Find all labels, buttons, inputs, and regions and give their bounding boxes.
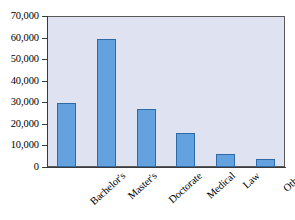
bar[interactable]: [176, 133, 195, 167]
x-axis-tick-labels: Bachelor'sMaster'sDoctorateMedicalLawOth…: [47, 168, 285, 220]
x-axis-tick-label: Law: [240, 170, 261, 190]
x-axis-tick-label: Medical: [204, 170, 236, 201]
x-axis-tick-label: Doctorate: [167, 170, 204, 205]
bar[interactable]: [137, 109, 156, 167]
y-axis-tick-label-text: 50,000: [11, 54, 39, 64]
bar[interactable]: [216, 154, 235, 167]
y-axis-tick-label-text: 30,000: [11, 97, 39, 107]
bar[interactable]: [97, 39, 116, 167]
bar[interactable]: [256, 159, 275, 167]
bars-layer: [47, 16, 285, 167]
y-axis-tick-label-text: 20,000: [11, 119, 39, 129]
bar-chart: 010,00020,00030,00040,00050,00060,00070,…: [0, 0, 295, 220]
y-axis-tick-label-text: 0: [34, 162, 39, 172]
bar[interactable]: [57, 103, 76, 167]
y-axis-tick-label-text: 10,000: [11, 140, 39, 150]
x-axis-tick-label: Other: [281, 170, 295, 194]
y-axis-tick-label-text: 70,000: [11, 11, 39, 21]
y-axis-tick-label-text: 40,000: [11, 76, 39, 86]
x-axis-tick-label: Master's: [125, 170, 158, 201]
x-axis-tick-label: Bachelor's: [88, 170, 127, 207]
y-axis-tick-label-text: 60,000: [11, 33, 39, 43]
